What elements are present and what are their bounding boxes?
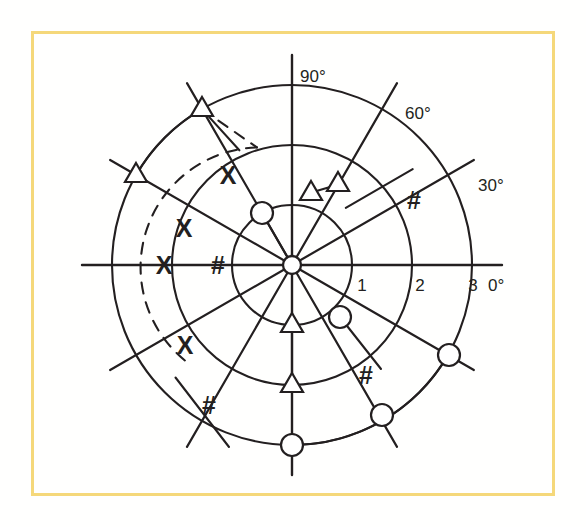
figure-border-frame — [31, 31, 555, 496]
figure-root: X X X X # # # # 1 2 3 90° 60° 30° 0° — [0, 0, 586, 527]
